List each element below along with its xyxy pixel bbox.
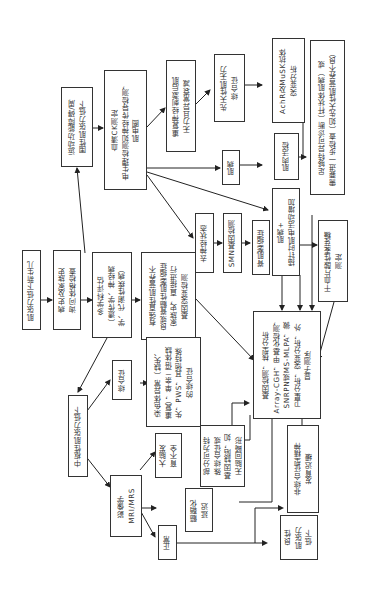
node-benign-hypotonia: 良性 肌张力 低下 xyxy=(280,515,318,560)
node-cerebral-dysgenesis: 大脑发 育不全 xyxy=(155,433,182,478)
node-rns: 重复神经刺激后肌 无力且异常衰减 xyxy=(166,60,196,152)
node-myopathy-emg: 肌病+ 插针时肌电活动增加 xyxy=(272,188,300,276)
node-myopathy: 肌病 xyxy=(222,150,240,185)
node-myelination-delay: 髓鞘化 延迟 xyxy=(185,488,213,532)
node-start: 肌张力低下新生儿 xyxy=(22,250,41,330)
node-smn: SMN基因检测 xyxy=(223,213,242,273)
node-sma: 脊肌萎缩症 xyxy=(252,220,270,275)
node-central-hypotonia: 中枢性肌张力低下 xyxy=(68,395,88,477)
node-genetic-testing: 基因检测，核型分析 Array-CGH，甲基化检测， SNRPN或MS-MLPA… xyxy=(253,311,321,419)
node-chromosomal: 染色体异常（缺失、 重复），单亲二倍体缺 失，PWS，其他特殊 的综合征 xyxy=(146,337,201,427)
node-diagnosis: 足够特异可诊断（杆状体肌病）或 需要进一步检查（如先天性肌营养不良） xyxy=(310,40,345,195)
node-multidisciplinary: 多学科评估 （遗传学、神经病 学、代谢性疾病） xyxy=(92,252,132,338)
node-syndrome: 综合征 xyxy=(112,360,132,400)
node-denervation: 去神经状态 xyxy=(195,213,214,273)
node-history: 病史及家族史 询问体格检查 xyxy=(53,250,81,330)
node-imaging: 影像学 MRI/MRS xyxy=(110,475,142,537)
node-cms: 先天性肌无力 综合征 xyxy=(214,54,245,122)
node-serum-ck: 血清CK测定 电生理检测如神经传导检测， 肌电图 xyxy=(104,70,147,190)
node-acid-maltase: 干血片酸性麦芽糖 测定 xyxy=(318,220,348,302)
node-strong-family-history: 有强直性肌营养不 良或脊髓性肌萎缩症 家族史，直接进行 基因突变检测 xyxy=(141,252,196,340)
node-nonsyndromic-delay: 非综合征型精神 发育迟缓 xyxy=(287,425,319,513)
node-achr-musk: AchR及MuSK抗体 突变分析 xyxy=(272,38,305,123)
node-normal: 正常 xyxy=(158,525,177,560)
node-muscle-biopsy: 肌肉活检 xyxy=(274,133,299,180)
node-motor-dysfunction: 运动功能障碍/周 围性肌张力低下 xyxy=(61,87,93,167)
node-partial-syndrome: 部分可为特 殊综合征或 基因缺陷，如 无脑回畸形 xyxy=(200,425,245,487)
flowchart-canvas: 肌张力低下新生儿 病史及家族史 询问体格检查 多学科评估 （遗传学、神经病 学、… xyxy=(0,0,370,591)
